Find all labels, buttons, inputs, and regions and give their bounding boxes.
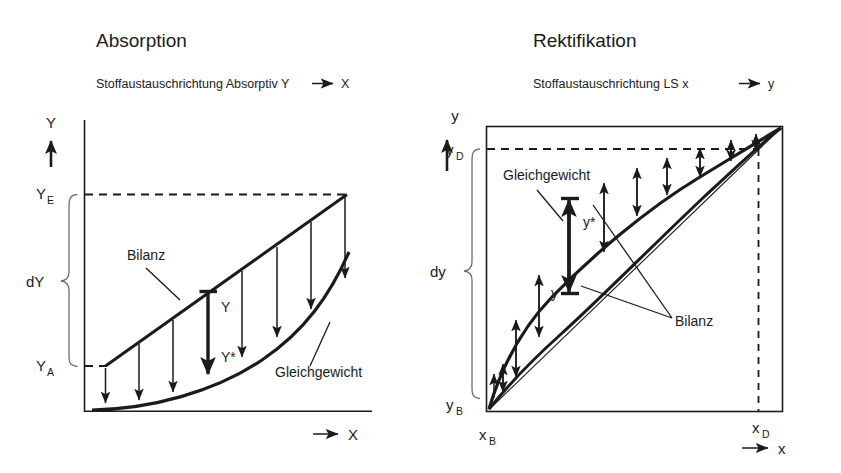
tick-yb-base: y (446, 396, 454, 413)
subtitle-target-left: X (341, 77, 350, 91)
dy-label-rektifikation: dy (430, 263, 446, 280)
page-background (0, 0, 841, 473)
panel-title-absorption: Absorption (96, 30, 187, 51)
bilanz-label-absorption: Bilanz (127, 247, 165, 263)
y-axis-label-rektifikation: y (451, 107, 459, 124)
tick-xb-sub: B (489, 435, 496, 447)
tick-xd-base: x (752, 419, 760, 436)
tick-yd-base: y (446, 141, 454, 158)
x-axis-label-rektifikation: x (778, 440, 786, 457)
tick-ya-base: Y (36, 357, 46, 374)
tick-ye-sub: E (47, 194, 54, 206)
tick-xb-base: x (479, 426, 487, 443)
subtitle-text-left: Stoffaustauschrichtung Absorptiv Y (96, 77, 290, 91)
x-axis-label-absorption: X (348, 426, 358, 443)
equilibrium-value-label-ystar: Y* (221, 349, 236, 365)
diagram-canvas: Absorption Stoffaustauschrichtung Absorp… (0, 0, 841, 473)
subtitle-target-right: y (768, 77, 775, 91)
subtitle-text-right: Stoffaustauschrichtung LS x (533, 77, 689, 91)
gleichgewicht-label-absorption: Gleichgewicht (275, 364, 362, 380)
operating-value-label-y: y (551, 285, 558, 301)
driving-force-label-y: Y (221, 299, 231, 315)
tick-ye-base: Y (36, 185, 46, 202)
tick-xd-sub: D (762, 428, 770, 440)
dy-label: dY (26, 273, 44, 290)
bilanz-label-rektifikation: Bilanz (675, 313, 713, 329)
tick-yd-sub: D (456, 150, 464, 162)
y-axis-label-absorption: Y (46, 114, 56, 131)
tick-yb-sub: B (456, 405, 463, 417)
panel-title-rektifikation: Rektifikation (533, 30, 637, 51)
driving-force-label-ystar: y* (583, 214, 596, 230)
tick-ya-sub: A (47, 366, 54, 378)
gleichgewicht-label-rektifikation: Gleichgewicht (503, 167, 590, 183)
